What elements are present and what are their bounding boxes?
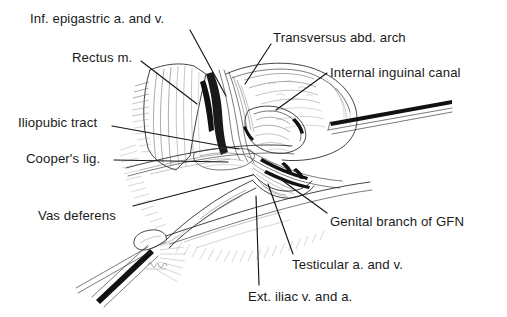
label-testicular-a-v: Testicular a. and v. <box>292 258 403 272</box>
label-coopers-lig: Cooper's lig. <box>26 152 100 166</box>
label-internal-inguinal-canal: Internal inguinal canal <box>330 66 461 80</box>
label-ext-iliac-v-a: Ext. iliac v. and a. <box>248 290 352 304</box>
label-genital-branch-gfn: Genital branch of GFN <box>330 215 464 229</box>
label-transversus-arch: Transversus abd. arch <box>273 31 406 45</box>
label-inf-epigastric: Inf. epigastric a. and v. <box>30 12 164 26</box>
label-iliopubic-tract: Iliopubic tract <box>18 116 97 130</box>
label-vas-deferens: Vas deferens <box>38 209 116 223</box>
label-rectus-m: Rectus m. <box>72 51 132 65</box>
